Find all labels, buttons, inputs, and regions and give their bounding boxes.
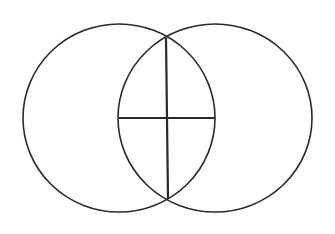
diagram-canvas	[0, 0, 335, 234]
vesica-piscis-diagram	[0, 0, 335, 234]
